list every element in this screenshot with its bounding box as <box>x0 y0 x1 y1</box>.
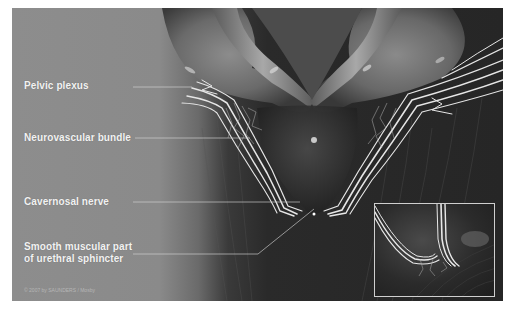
label-urethral-sphincter-line1: Smooth muscular part <box>24 241 132 253</box>
label-urethral-sphincter-line2: of urethral sphincter <box>24 253 132 265</box>
label-urethral-sphincter: Smooth muscular part of urethral sphinct… <box>24 241 132 265</box>
detail-inset <box>374 203 495 297</box>
anatomical-figure: Pelvic plexus Neurovascular bundle Caver… <box>12 8 503 301</box>
inset-nerve-detail <box>375 204 495 297</box>
label-neurovascular-bundle: Neurovascular bundle <box>24 132 131 144</box>
label-pelvic-plexus: Pelvic plexus <box>24 80 89 92</box>
copyright-notice: © 2007 by SAUNDERS / Mosby <box>24 287 95 293</box>
label-cavernosal-nerve: Cavernosal nerve <box>24 196 109 208</box>
